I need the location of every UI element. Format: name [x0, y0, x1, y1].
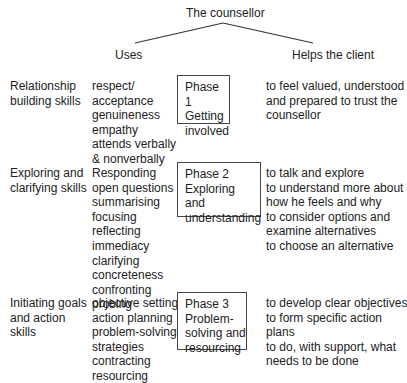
- skill-group-1: Relationship building skills: [10, 79, 81, 108]
- skill-group-2: Exploring and clarifying skills: [10, 166, 87, 195]
- uses-list-1: respect/acceptancegenuineness empathyatt…: [92, 79, 176, 167]
- branch-helps: Helps the client: [292, 48, 374, 63]
- uses-list-3: objective settingaction planningproblem-…: [92, 296, 178, 383]
- helps-list-2: to talk and exploreto understand more ab…: [266, 166, 403, 254]
- helps-list-1: to feel valued, understoodand prepared t…: [266, 79, 404, 123]
- phase-2-box: Phase 2Exploringandunderstanding: [177, 162, 261, 217]
- helps-list-3: to develop clear objectivesto form speci…: [266, 296, 407, 369]
- branch-uses: Uses: [115, 48, 142, 63]
- phase-1-box: Phase 1Gettinginvolved: [177, 75, 230, 124]
- phase-3-box: Phase 3Problem-solving andresourcing: [177, 292, 247, 350]
- uses-list-2: Respondingopen questionssummarising focu…: [92, 166, 173, 312]
- skill-group-3: Initiating goals and action skills: [10, 296, 87, 340]
- root-label: The counsellor: [186, 6, 265, 21]
